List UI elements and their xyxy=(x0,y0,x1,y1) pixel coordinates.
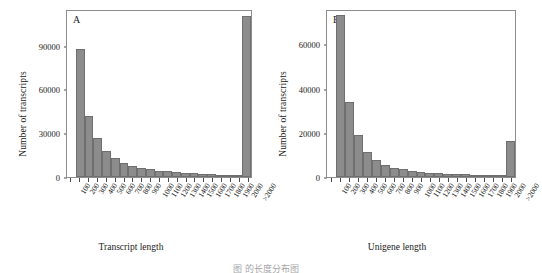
panel-b-bar-slot xyxy=(425,11,434,177)
panel-b-bar xyxy=(506,141,515,177)
panel-b-bar-slot xyxy=(417,11,426,177)
panel-a-bar xyxy=(172,172,181,177)
panel-a-bar xyxy=(207,174,216,177)
panel-a-bar xyxy=(181,173,190,177)
panel-a-bar xyxy=(190,173,199,177)
panel-a-bar-slot xyxy=(120,11,129,177)
panel-a-y-tick-label: 60000 xyxy=(39,86,60,95)
panel-a-y-tick-labels: 0300006000090000 xyxy=(24,6,64,178)
panel-a-bar-slot xyxy=(146,11,155,177)
panel-a-x-tick-labels: 1002003004005006007008009001000110012001… xyxy=(66,182,252,226)
panel-a-bar xyxy=(137,168,146,177)
panel-a-bar-slot xyxy=(163,11,172,177)
panel-b-bar-slot xyxy=(381,11,390,177)
panel-a-bar-slot xyxy=(76,11,85,177)
panel-b-bar xyxy=(372,160,381,177)
panel-a-bar-slot xyxy=(242,11,251,177)
panel-b-bar xyxy=(390,168,399,177)
panel-a-bars xyxy=(67,11,251,177)
panel-a-bar-slot xyxy=(207,11,216,177)
panel-b-bar-slot xyxy=(336,11,345,177)
panel-b-y-tick-label: 40000 xyxy=(299,85,320,94)
panel-b-x-tick-labels: 1002003004005006007008009001000110012001… xyxy=(326,182,516,226)
panel-b-bar-slot xyxy=(443,11,452,177)
panel-a-bar xyxy=(76,49,85,177)
panel-b-bar-slot xyxy=(363,11,372,177)
panel-b-bar-slot xyxy=(399,11,408,177)
panel-a-bar-slot xyxy=(93,11,102,177)
panel-a-bar xyxy=(93,138,102,177)
panel-b-bar-slot xyxy=(479,11,488,177)
panel-a-bar xyxy=(85,116,94,177)
panel-a-x-axis-title: Transcript length xyxy=(38,242,224,252)
panel-a-bar xyxy=(216,175,225,177)
panel-a-bar-slot xyxy=(67,11,76,177)
panel-a-y-tick-label: 90000 xyxy=(39,42,60,51)
panel-b-bar xyxy=(470,175,479,177)
panel-a-bar-slot xyxy=(198,11,207,177)
panel-b-bar-slot xyxy=(345,11,354,177)
panel-b-bar xyxy=(425,173,434,177)
panel-b-bar xyxy=(488,175,497,177)
panel-b-bar xyxy=(461,174,470,177)
panel-a-bar xyxy=(111,158,120,177)
panel-b-x-axis-title: Unigene length xyxy=(302,242,492,252)
panel-a-bar xyxy=(120,163,129,177)
panel-b-bar-slot xyxy=(408,11,417,177)
panel-a-bar xyxy=(128,166,137,177)
panel-b-bar xyxy=(363,152,372,177)
panel-a-bar xyxy=(102,151,111,177)
panel-b-bar xyxy=(443,174,452,177)
panel-b-bar xyxy=(354,135,363,177)
panel-b-bar-slot xyxy=(461,11,470,177)
panel-b-bar xyxy=(336,15,345,177)
panel-a-bar-slot xyxy=(216,11,225,177)
panel-a-y-tick-label: 30000 xyxy=(39,130,60,139)
panel-b-bar-slot xyxy=(390,11,399,177)
panel-a-bar xyxy=(225,175,234,177)
panel-b: Number of transcripts 0200004000060000 B… xyxy=(268,6,524,206)
panel-a-bar-slot xyxy=(234,11,243,177)
panel-a-bar xyxy=(234,175,243,177)
panel-b-bars xyxy=(327,11,515,177)
figure-caption: 图 的长度分布图 xyxy=(0,262,532,273)
panel-a-bar-slot xyxy=(102,11,111,177)
panel-a-bar-slot xyxy=(190,11,199,177)
panel-b-bar xyxy=(434,173,443,177)
panel-a-bar-slot xyxy=(111,11,120,177)
panel-a-bar xyxy=(155,171,164,177)
panel-b-bar-slot xyxy=(434,11,443,177)
panel-b-bar xyxy=(408,171,417,177)
panel-a-bar xyxy=(146,169,155,177)
panel-a-bar-slot xyxy=(225,11,234,177)
panel-b-bar-slot xyxy=(354,11,363,177)
panel-b-bar xyxy=(399,169,408,177)
panel-a: Number of transcripts 0300006000090000 A… xyxy=(8,6,260,206)
panel-a-bar-slot xyxy=(85,11,94,177)
panel-b-bar-slot xyxy=(452,11,461,177)
panel-b-bar xyxy=(452,174,461,177)
panel-b-bar-slot xyxy=(327,11,336,177)
panel-a-bar-slot xyxy=(155,11,164,177)
panel-b-bar-slot xyxy=(506,11,515,177)
panel-a-plot-area: A xyxy=(66,10,252,178)
panel-a-bar xyxy=(163,171,172,177)
panel-a-bar-slot xyxy=(172,11,181,177)
panel-b-bar-slot xyxy=(372,11,381,177)
panel-b-bar xyxy=(479,175,488,177)
panel-b-bar xyxy=(497,175,506,177)
panel-a-y-tick-label: 0 xyxy=(56,174,60,183)
panel-b-y-tick-labels: 0200004000060000 xyxy=(284,6,324,178)
panel-b-bar-slot xyxy=(470,11,479,177)
panel-b-y-tick-label: 60000 xyxy=(299,41,320,50)
panel-a-bar-slot xyxy=(181,11,190,177)
panel-a-bar-slot xyxy=(128,11,137,177)
panel-a-bar xyxy=(198,174,207,177)
panel-b-bar xyxy=(381,165,390,177)
panel-b-bar-slot xyxy=(488,11,497,177)
panel-b-bar xyxy=(417,172,426,177)
panel-b-plot-area: B xyxy=(326,10,516,178)
panel-b-bar-slot xyxy=(497,11,506,177)
panel-a-bar-slot xyxy=(137,11,146,177)
